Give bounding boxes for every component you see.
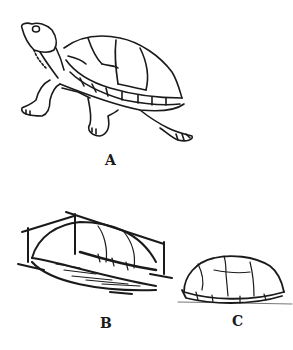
label-a: A (105, 153, 116, 167)
turtle-illustration: A B C (0, 0, 293, 350)
label-b: B (100, 316, 112, 330)
turtle-drawing (0, 0, 293, 350)
panel-b-shell-box (18, 212, 172, 294)
label-c: C (232, 314, 243, 328)
panel-c-shell-profile (178, 256, 292, 304)
panel-a-turtle (22, 23, 193, 141)
